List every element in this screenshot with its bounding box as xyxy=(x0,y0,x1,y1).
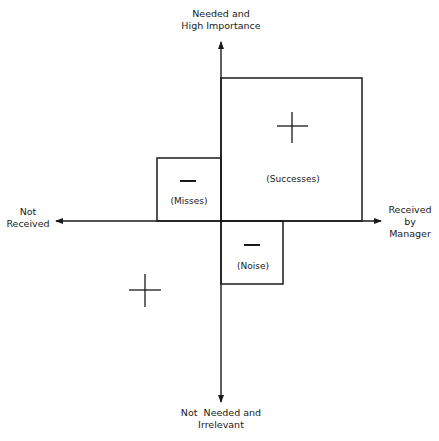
minus-icon-misses xyxy=(180,180,196,182)
left-axis-label: Not Received xyxy=(4,206,52,230)
left-axis-label-line1: Not xyxy=(4,206,52,218)
top-axis-label-line1: Needed and xyxy=(150,8,292,20)
bottom-axis-label-line1: Not Needed and xyxy=(150,407,292,419)
right-axis-label: Received by Manager xyxy=(384,204,436,240)
minus-icon-noise xyxy=(244,244,260,246)
bottom-axis-label: Not Needed and Irrelevant xyxy=(150,407,292,431)
right-axis-label-line2: by xyxy=(384,216,436,228)
plus-icon-successes xyxy=(277,112,308,143)
successes-label: (Successes) xyxy=(256,174,330,185)
diagram-canvas xyxy=(0,0,439,441)
noise-label: (Noise) xyxy=(224,261,282,272)
misses-label: (Misses) xyxy=(160,196,218,207)
left-axis-label-line2: Received xyxy=(4,218,52,230)
successes-box xyxy=(221,78,362,221)
right-axis-label-line1: Received xyxy=(384,204,436,216)
plus-icon-lower-left xyxy=(129,274,161,307)
right-axis-label-line3: Manager xyxy=(384,228,436,240)
top-axis-label: Needed and High Importance xyxy=(150,8,292,32)
top-axis-label-line2: High Importance xyxy=(150,20,292,32)
bottom-axis-label-line2: Irrelevant xyxy=(150,419,292,431)
noise-box xyxy=(221,221,283,284)
misses-box xyxy=(157,158,221,221)
